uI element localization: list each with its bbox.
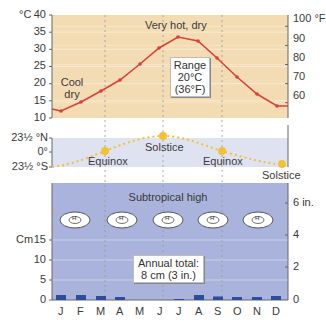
annual-total-label: Annual total: (134, 257, 203, 269)
month-label: S (214, 305, 221, 317)
precip-in-tick: 0 (293, 293, 299, 305)
month-label: J (157, 305, 163, 317)
month-label: F (77, 305, 84, 317)
month-label: M (135, 305, 144, 317)
equinox-label-september: Equinox (203, 155, 243, 167)
temp-tick: 15 (26, 94, 46, 106)
precip-tick: 10 (26, 253, 46, 265)
dry-label: dry (56, 88, 88, 100)
month-label: M (96, 305, 105, 317)
range-label: Range (171, 59, 209, 71)
month-label: A (195, 305, 202, 317)
h-label: H (210, 215, 214, 221)
precip-tick: 0 (26, 293, 46, 305)
precip-in-tick: 2 (293, 260, 299, 272)
lat-s-tick: 23½ °S (0, 160, 48, 172)
temp-tick: 35 (26, 25, 46, 37)
temp-tick: 40 (26, 8, 46, 20)
solstice-label-june: Solstice (145, 141, 184, 153)
subtropical-high-label: Subtropical high (122, 191, 214, 203)
temp-f-tick: 80 (293, 51, 305, 63)
cool-label: Cool (56, 76, 88, 88)
temp-tick: 25 (26, 59, 46, 71)
temp-f-tick: 100 °F (293, 12, 326, 24)
lat-0-tick: 0° (0, 145, 48, 157)
h-label: H (255, 215, 259, 221)
very-hot-dry-annotation: Very hot, dry (145, 19, 207, 31)
precip-tick: 15 (26, 233, 46, 245)
equinox-label-march: Equinox (88, 155, 128, 167)
range-c-value: 20°C (171, 71, 209, 83)
month-label: A (116, 305, 123, 317)
month-label: J (176, 305, 182, 317)
h-label: H (165, 215, 169, 221)
annual-total-value: 8 cm (3 in.) (134, 269, 203, 281)
temp-f-tick: 70 (293, 70, 305, 82)
temp-f-tick: 60 (293, 89, 305, 101)
solstice-label-december: Solstice (262, 169, 301, 181)
temp-tick: 10 (26, 111, 46, 123)
precip-in-tick: 6 in. (293, 196, 314, 208)
range-box: Range 20°C (36°F) (170, 57, 210, 97)
temp-f-tick: 90 (293, 32, 305, 44)
annual-total-box: Annual total: 8 cm (3 in.) (133, 255, 204, 283)
month-label: D (272, 305, 280, 317)
temp-tick: 20 (26, 76, 46, 88)
precip-in-tick: 4 (293, 228, 299, 240)
month-label: N (253, 305, 261, 317)
h-label: H (72, 215, 76, 221)
lat-n-tick: 23½ °N (0, 131, 48, 143)
month-label: O (233, 305, 242, 317)
cool-dry-annotation: Cool dry (56, 76, 88, 100)
precip-tick: 5 (26, 273, 46, 285)
h-label: H (119, 215, 123, 221)
month-label: J (58, 305, 64, 317)
temp-tick: 30 (26, 42, 46, 54)
range-f-value: (36°F) (171, 83, 209, 95)
